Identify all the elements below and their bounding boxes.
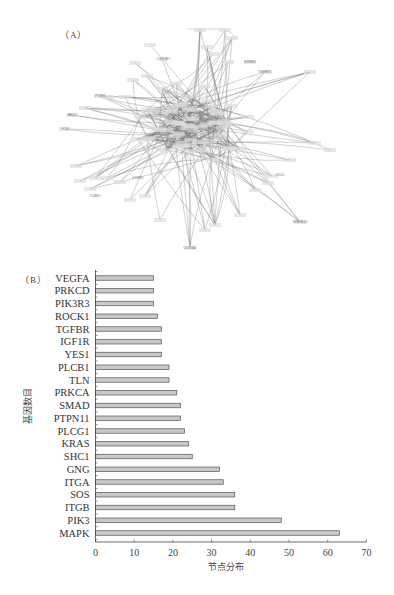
bar-igf1r	[96, 340, 162, 345]
network-node	[207, 52, 219, 56]
network-node	[157, 87, 169, 91]
category-label: PLCG1	[57, 426, 89, 437]
network-node	[226, 36, 238, 40]
network-node	[324, 148, 336, 152]
network-node	[84, 187, 96, 191]
node-label: TGFBR1	[258, 70, 272, 74]
category-label: SMAD	[59, 400, 90, 411]
network-node	[114, 180, 126, 184]
category-label: TGFBR	[56, 324, 90, 335]
network-node	[198, 84, 210, 88]
network-node	[205, 104, 217, 108]
network-node	[309, 141, 321, 145]
node-label: PTEN	[95, 94, 105, 98]
network-node	[79, 106, 91, 110]
network-node	[184, 149, 196, 153]
network-node	[212, 111, 224, 115]
category-label: PTPN11	[54, 413, 90, 424]
x-tick-label: 30	[207, 547, 217, 558]
category-label: VEGFA	[55, 273, 90, 284]
network-node	[209, 223, 221, 227]
node-label: COL4A1	[183, 246, 196, 250]
network-node	[119, 95, 131, 99]
network-node	[186, 108, 198, 112]
network-node	[182, 95, 194, 99]
category-label: MAPK	[59, 528, 90, 539]
bar-ptpn11	[96, 416, 181, 421]
bar-sos	[96, 493, 235, 498]
bar-plcb1	[96, 365, 170, 370]
network-node	[284, 158, 296, 162]
network-node	[160, 148, 172, 152]
category-label: YES1	[64, 349, 89, 360]
network-node	[216, 126, 228, 130]
network-node	[201, 45, 213, 49]
bar-kras	[96, 442, 189, 447]
bar-rock1	[96, 314, 158, 319]
category-label: TLN	[69, 375, 90, 386]
bar-pik3	[96, 518, 282, 523]
network-node	[206, 157, 218, 161]
network-node	[187, 116, 199, 120]
x-tick-label: 70	[361, 547, 371, 558]
network-node	[139, 194, 151, 198]
network-node	[70, 164, 82, 168]
network-node	[234, 213, 246, 217]
category-label: PLCB1	[58, 362, 90, 373]
network-node	[200, 99, 212, 103]
category-label: GNG	[67, 464, 90, 475]
bar-gng	[96, 467, 220, 472]
network-node	[89, 176, 101, 180]
bar-mapk	[96, 531, 340, 536]
bar-yes1	[96, 352, 162, 357]
network-node	[144, 43, 156, 47]
x-tick-label: 60	[323, 547, 333, 558]
category-label: SHC1	[64, 451, 90, 462]
bar-prkca	[96, 391, 177, 396]
network-node	[220, 121, 232, 125]
node-label: VEGFC	[159, 57, 172, 61]
bar-shc1	[96, 454, 193, 459]
bar-smad	[96, 403, 181, 408]
network-node	[166, 107, 178, 111]
axes: 010203040506070	[93, 270, 371, 558]
network-node	[176, 103, 188, 107]
bars: VEGFAPRKCDPIK3R3ROCK1TGFBRIGF1RYES1PLCB1…	[54, 273, 340, 539]
y-axis-title: 基因数目	[22, 388, 33, 424]
network-node	[194, 28, 206, 32]
bar-tln	[96, 378, 170, 383]
bar-plcg1	[96, 429, 185, 434]
network-node	[196, 125, 208, 129]
node-label: FOS	[61, 127, 69, 131]
network-node	[170, 134, 182, 138]
network-node	[129, 61, 141, 65]
node-label: EPBB1	[132, 176, 143, 180]
node-label: SRC	[186, 128, 194, 132]
network-node	[183, 123, 195, 127]
network-node	[226, 104, 238, 108]
bar-prkcd	[96, 289, 154, 294]
node-label: CD40	[276, 173, 285, 177]
network-node	[154, 218, 166, 222]
category-label: ROCK1	[55, 311, 89, 322]
x-tick-label: 50	[284, 547, 294, 558]
network-node	[242, 129, 254, 133]
category-label: SOS	[70, 489, 89, 500]
node-label: SPATA13	[293, 220, 308, 224]
network-node	[207, 120, 219, 124]
network-node	[198, 148, 210, 152]
bar-vegfa	[96, 276, 154, 281]
network-node	[154, 128, 166, 132]
category-label: IGF1R	[60, 336, 89, 347]
x-axis-title: 节点分布	[208, 561, 244, 572]
category-label: KRAS	[61, 438, 89, 449]
category-label: PRKCA	[54, 387, 89, 398]
network-node	[74, 179, 86, 183]
category-label: PIK3	[67, 515, 89, 526]
network-graph: ABL2FOSPTENVEGFCSPATA13COL4A1TGFBR1ERBB4…	[0, 0, 394, 260]
x-tick-label: 20	[168, 547, 178, 558]
network-node	[199, 228, 211, 232]
network-node	[127, 78, 139, 82]
x-tick-label: 10	[129, 547, 139, 558]
bar-itga	[96, 480, 224, 485]
